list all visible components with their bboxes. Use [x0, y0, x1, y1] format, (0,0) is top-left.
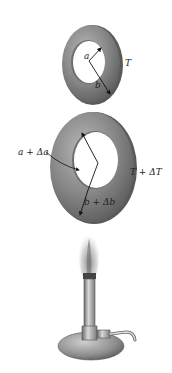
gas-inlet [97, 330, 110, 338]
label-b-plus-delta-b: b + Δb [84, 197, 116, 207]
bunsen-burner [58, 234, 135, 360]
burner-nozzle [83, 273, 96, 279]
thermal-expansion-diagram: a b T a + Δa b + Δb T + ΔT [0, 0, 172, 373]
ring-initial-hole [73, 41, 105, 83]
burner-collar [82, 326, 97, 340]
label-T-plus-delta-T: T + ΔT [130, 167, 163, 177]
label-a-plus-delta-a: a + Δa [18, 147, 49, 157]
label-a: a [84, 51, 89, 61]
ring-heated: a + Δa b + Δb T + ΔT [18, 112, 163, 224]
label-T: T [125, 58, 132, 68]
burner-tube [84, 279, 95, 331]
ring-initial: a b T [62, 25, 132, 105]
label-b: b [95, 80, 101, 90]
